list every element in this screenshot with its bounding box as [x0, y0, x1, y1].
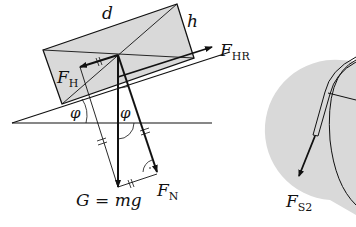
right-angle-dot [149, 167, 151, 169]
label-angle-left: φ [70, 104, 81, 122]
label-holding-force: FHR [219, 40, 250, 63]
label-weight: G = mg [76, 190, 142, 210]
label-normal-force: FN [156, 180, 179, 203]
label-angle-center: φ [120, 104, 131, 122]
tick [128, 180, 131, 188]
angle-arc-left [82, 99, 87, 123]
drum [265, 60, 356, 215]
tick [97, 138, 106, 141]
tick [98, 142, 107, 145]
tick [131, 179, 134, 187]
diagram-canvas: d h FH FHR φ φ G = mg FN FS2 [0, 0, 356, 227]
parallelogram-side-2 [118, 174, 157, 187]
angle-arc-lower [118, 123, 134, 139]
label-length-d: d [102, 3, 113, 23]
right-angle-arc [143, 160, 152, 172]
tick [140, 128, 149, 131]
label-height-h: h [187, 11, 198, 31]
